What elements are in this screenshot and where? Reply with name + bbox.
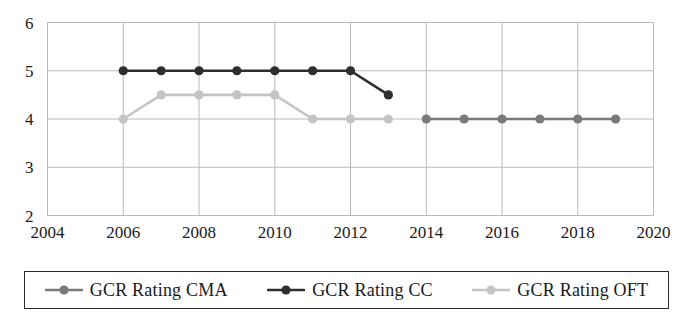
data-point-marker <box>270 90 279 99</box>
data-point-marker <box>611 114 620 123</box>
y-axis-tick-label: 4 <box>25 110 34 129</box>
data-point-marker <box>157 66 166 75</box>
data-point-marker <box>270 66 279 75</box>
data-point-marker <box>232 66 241 75</box>
data-point-marker <box>194 66 203 75</box>
data-point-marker <box>119 66 128 75</box>
data-point-marker <box>573 114 582 123</box>
data-point-marker <box>535 114 544 123</box>
data-point-marker <box>384 114 393 123</box>
data-series <box>422 114 621 123</box>
data-series-layer <box>119 66 621 123</box>
legend-item[interactable]: GCR Rating CMA <box>45 280 228 301</box>
y-axis-tick-label: 3 <box>25 158 34 177</box>
data-point-marker <box>460 114 469 123</box>
data-point-marker <box>497 114 506 123</box>
x-axis-tick-labels: 200420062008201020122014201620182020 <box>31 223 671 242</box>
data-point-marker <box>384 90 393 99</box>
y-axis-tick-label: 6 <box>25 14 34 33</box>
legend-item[interactable]: GCR Rating OFT <box>472 280 648 301</box>
line-chart: 65432 2004200620082010201220142016201820… <box>0 0 693 324</box>
circle-marker <box>267 283 305 297</box>
x-axis-tick-label: 2014 <box>409 223 444 242</box>
x-axis-tick-label: 2006 <box>106 223 140 242</box>
data-point-marker <box>119 114 128 123</box>
plot-area: 65432 2004200620082010201220142016201820… <box>0 0 693 258</box>
x-axis-tick-label: 2012 <box>334 223 368 242</box>
data-point-marker <box>157 90 166 99</box>
data-point-marker <box>308 114 317 123</box>
x-axis-tick-label: 2010 <box>258 223 292 242</box>
legend-item-label: GCR Rating CMA <box>90 280 228 301</box>
x-axis-tick-label: 2018 <box>561 223 595 242</box>
legend-item[interactable]: GCR Rating CC <box>267 280 433 301</box>
x-axis-tick-label: 2020 <box>637 223 671 242</box>
data-point-marker <box>308 66 317 75</box>
x-axis-tick-label: 2008 <box>182 223 216 242</box>
data-point-marker <box>346 114 355 123</box>
y-axis-tick-labels: 65432 <box>25 14 34 226</box>
y-axis-tick-label: 5 <box>25 62 34 81</box>
circle-marker <box>45 283 83 297</box>
legend-item-label: GCR Rating OFT <box>517 280 648 301</box>
chart-legend: GCR Rating CMAGCR Rating CCGCR Rating OF… <box>24 271 669 309</box>
data-point-marker <box>346 66 355 75</box>
legend-item-label: GCR Rating CC <box>312 280 433 301</box>
x-axis-tick-label: 2004 <box>31 223 66 242</box>
data-point-marker <box>422 114 431 123</box>
x-axis-tick-label: 2016 <box>485 223 519 242</box>
data-point-marker <box>194 90 203 99</box>
circle-marker <box>472 283 510 297</box>
data-point-marker <box>232 90 241 99</box>
